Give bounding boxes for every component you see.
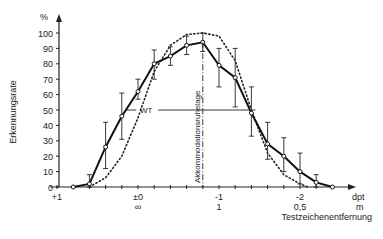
akkommodation-label: Akkommodationsruhelage (193, 90, 202, 183)
x-tick-sublabel: 1 (216, 202, 221, 212)
data-point (87, 182, 91, 186)
y-tick-label: 70 (43, 75, 53, 85)
y-tick-label: 90 (43, 44, 53, 54)
x-tick-sublabel: ∞ (135, 202, 141, 212)
wt-label: WT (140, 106, 153, 115)
x-tick-sublabel: 0,5 (294, 202, 307, 212)
x-unit-dpt: dpt (352, 192, 365, 202)
data-point (249, 111, 253, 115)
data-point (120, 114, 124, 118)
data-point (282, 154, 286, 158)
data-point (185, 43, 189, 47)
data-point (266, 142, 270, 146)
x-tick-label: +1 (52, 192, 62, 202)
data-point (314, 180, 318, 184)
data-point (152, 62, 156, 66)
y-tick-label: 50 (43, 106, 53, 116)
data-point (217, 63, 221, 67)
x-tick-label: ±0 (133, 192, 143, 202)
y-tick-label: 20 (43, 152, 53, 162)
x-tick-label: -1 (215, 192, 223, 202)
y-tick-label: 10 (43, 167, 53, 177)
data-point (330, 185, 334, 189)
data-point (71, 185, 75, 189)
y-axis-label: Erkennungsrate (8, 80, 18, 144)
x-unit-m: m (356, 202, 364, 212)
y-tick-label: 60 (43, 90, 53, 100)
y-tick-label: 100 (38, 29, 53, 39)
data-point (168, 54, 172, 58)
x-axis: +1±0∞-11-20,5 (50, 184, 356, 212)
chart: 0102030405060708090100 +1±0∞-11-20,5 Akk… (0, 0, 383, 239)
y-axis: 0102030405060708090100 (38, 14, 62, 193)
data-point (298, 170, 302, 174)
data-point (136, 90, 140, 94)
y-unit: % (40, 12, 48, 22)
data-point (104, 145, 108, 149)
y-tick-label: 40 (43, 121, 53, 131)
data-point (233, 76, 237, 80)
x-tick-label: -2 (296, 192, 304, 202)
y-tick-label: 80 (43, 59, 53, 69)
x-axis-label: Testzeichenentfernung (281, 212, 372, 222)
y-tick-label: 30 (43, 136, 53, 146)
